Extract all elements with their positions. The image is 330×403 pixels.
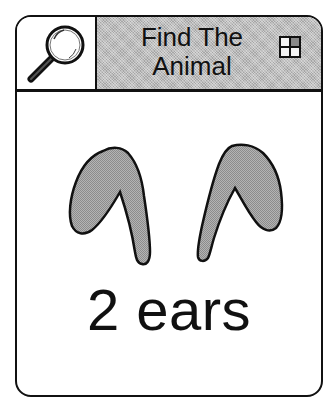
card-content: 2 ears	[17, 92, 321, 395]
ear-count-caption: 2 ears	[17, 278, 321, 342]
ears-illustration	[15, 15, 323, 300]
animal-card: Find The Animal	[15, 15, 323, 397]
right-ear	[198, 145, 282, 261]
left-ear	[70, 148, 150, 264]
